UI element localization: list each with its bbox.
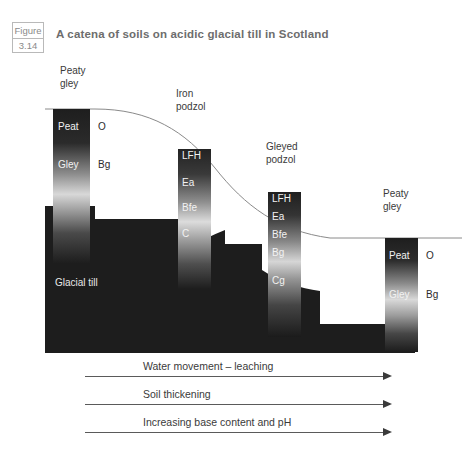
profile-1-title-line2: gley (60, 78, 78, 89)
profile-3-title-line1: Gleyed (266, 141, 298, 152)
profile-2-title-line2: podzol (176, 101, 205, 112)
profile-3-horizon-cg: Cg (272, 275, 285, 286)
arrow-head-icon-water-movement (383, 372, 392, 380)
profile-iron-podzol: Iron podzol LFH Ea Bfe C (176, 88, 211, 289)
profile-2-horizon-c: C (182, 228, 189, 239)
profile-column-2 (178, 149, 211, 289)
profile-peaty-gley-lower: Peaty gley Peat Gley O Bg (383, 188, 438, 352)
profile-4-title-line2: gley (383, 201, 401, 212)
process-arrows: Water movement – leaching Soil thickenin… (0, 360, 462, 461)
catena-diagram: Peaty gley Peat Gley O Bg Iron podzol LF… (0, 56, 462, 366)
arrow-head-icon-soil-thickening (383, 400, 392, 408)
figure-title: A catena of soils on acidic glacial till… (56, 28, 329, 40)
profile-2-title-line1: Iron (176, 88, 193, 99)
profile-2-horizon-lfh: LFH (182, 150, 201, 161)
profile-4-horizon-gley: Gley (389, 289, 410, 300)
profile-4-horizon-o: O (426, 250, 434, 261)
figure-header: Figure 3.14 A catena of soils on acidic … (12, 22, 452, 56)
arrow-line-soil-thickening (85, 404, 383, 405)
arrow-line-base-content (85, 432, 383, 433)
figure-number: 3.14 (13, 39, 43, 53)
profile-3-horizon-ea: Ea (272, 211, 285, 222)
profile-1-title-line1: Peaty (60, 65, 86, 76)
profile-1-horizon-bg: Bg (98, 159, 110, 170)
profile-gleyed-podzol: Gleyed podzol LFH Ea Bfe Bg Cg (266, 141, 301, 337)
profile-4-horizon-bg: Bg (426, 289, 438, 300)
profile-4-title-line1: Peaty (383, 188, 409, 199)
arrow-head-icon-base-content (383, 428, 392, 436)
figure-number-box: Figure 3.14 (12, 22, 44, 53)
profile-3-title-line2: podzol (266, 154, 295, 165)
profile-1-horizon-o: O (98, 121, 106, 132)
profile-4-horizon-peat: Peat (389, 250, 410, 261)
arrow-row-water-movement: Water movement – leaching (0, 360, 462, 388)
arrow-label-base-content: Increasing base content and pH (143, 416, 291, 428)
arrow-label-soil-thickening: Soil thickening (143, 388, 211, 400)
hillslope-surface-line (45, 109, 462, 238)
profile-2-horizon-ea: Ea (182, 177, 195, 188)
profile-2-horizon-bfe: Bfe (182, 202, 197, 213)
arrow-line-water-movement (85, 376, 383, 377)
arrow-row-soil-thickening: Soil thickening (0, 388, 462, 416)
profile-column-1 (53, 109, 90, 264)
arrow-row-base-content: Increasing base content and pH (0, 416, 462, 444)
profile-3-horizon-bfe: Bfe (272, 229, 287, 240)
glacial-till-mass (45, 206, 415, 353)
figure-word: Figure (13, 23, 43, 39)
profile-1-horizon-gley: Gley (58, 159, 79, 170)
profile-3-horizon-lfh: LFH (272, 193, 291, 204)
arrow-label-water-movement: Water movement – leaching (143, 360, 273, 372)
profile-3-horizon-bg: Bg (272, 247, 284, 258)
profile-1-horizon-peat: Peat (58, 121, 79, 132)
glacial-till-label: Glacial till (55, 277, 98, 288)
